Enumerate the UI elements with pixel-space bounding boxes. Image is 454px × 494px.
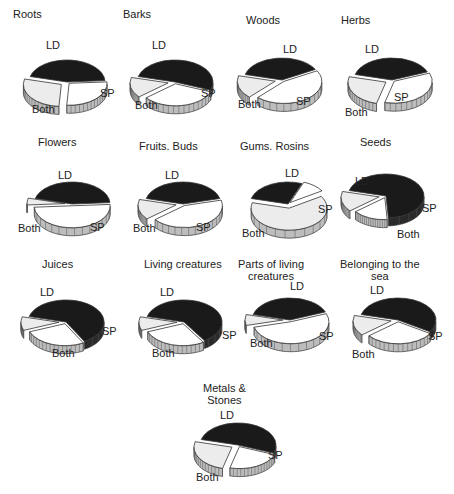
slice-label-sp: SP: [319, 331, 334, 342]
slice-label-ld: LD: [40, 287, 54, 298]
slice-label-ld: LD: [160, 287, 174, 298]
slice-ld: [251, 182, 302, 204]
slice-label-both: Both: [32, 104, 55, 115]
chart-title: Parts of living creatures: [238, 258, 304, 282]
slice-label-sp: SP: [318, 204, 333, 215]
slice-label-sp: SP: [422, 203, 437, 214]
slice-label-sp: SP: [201, 88, 216, 99]
slice-both: [21, 317, 59, 339]
slice-label-both: Both: [135, 100, 158, 111]
slice-ld: [355, 58, 427, 80]
slice-ld: [245, 58, 315, 80]
slice-ld: [201, 423, 276, 461]
chart-title: Living creatures: [144, 258, 222, 270]
slice-both: [341, 191, 379, 218]
slice-label-both: Both: [133, 223, 156, 234]
chart-title: Metals & Stones: [203, 382, 246, 406]
slice-label-ld: LD: [165, 170, 179, 181]
slice-label-ld: LD: [365, 44, 379, 55]
slice-label-sp: SP: [102, 326, 117, 337]
slice-label-both: Both: [196, 472, 219, 483]
chart-title: Fruits. Buds: [139, 140, 198, 152]
slice-label-both: Both: [352, 349, 375, 360]
slice-label-both: Both: [397, 229, 420, 240]
slice-label-sp: SP: [196, 222, 211, 233]
chart-title: Herbs: [341, 14, 370, 26]
chart-title: Woods: [246, 14, 280, 26]
slice-label-both: Both: [152, 348, 175, 359]
slice-label-ld: LD: [152, 40, 166, 51]
slice-sp: [290, 182, 322, 202]
chart-title: Seeds: [360, 136, 391, 148]
slice-both: [139, 317, 177, 339]
slice-label-sp: SP: [268, 450, 283, 461]
slice-ld: [30, 60, 105, 82]
slice-label-both: Both: [52, 348, 75, 359]
slice-ld: [361, 298, 436, 340]
slice-both: [27, 198, 65, 213]
chart-title: Gums. Rosins: [240, 140, 309, 152]
slice-label-ld: LD: [58, 170, 72, 181]
slice-label-ld: LD: [46, 40, 60, 51]
slice-label-both: Both: [238, 99, 261, 110]
slice-sp: [356, 198, 388, 228]
chart-title: Roots: [13, 8, 42, 20]
slice-label-sp: SP: [100, 88, 115, 99]
slice-label-both: Both: [250, 338, 273, 349]
slice-label-ld: LD: [285, 168, 299, 179]
slice-ld: [35, 182, 110, 204]
slice-sp: [258, 71, 322, 112]
slice-ld: [253, 298, 325, 320]
slice-both: [245, 315, 283, 334]
chart-title: Barks: [123, 8, 151, 20]
slice-label-ld: LD: [355, 176, 369, 187]
slice-ld: [29, 300, 104, 349]
slice-label-sp: SP: [394, 92, 409, 103]
slice-both: [353, 315, 391, 342]
slice-label-ld: LD: [290, 281, 304, 292]
slice-label-ld: LD: [370, 285, 384, 296]
slice-sp: [155, 200, 222, 235]
chart-title: Belonging to the sea: [340, 258, 420, 282]
slice-label-both: Both: [345, 107, 368, 118]
chart-title: Flowers: [38, 136, 77, 148]
slice-label-sp: SP: [428, 331, 443, 342]
slice-label-both: Both: [18, 223, 41, 234]
slice-label-ld: LD: [220, 410, 234, 421]
slice-ld: [146, 182, 220, 204]
slice-ld: [147, 300, 222, 349]
slice-label-sp: SP: [296, 96, 311, 107]
slice-sp: [369, 322, 430, 352]
chart-title: Juices: [42, 258, 73, 270]
slice-label-ld: LD: [283, 44, 297, 55]
slice-label-sp: SP: [90, 222, 105, 233]
slice-label-both: Both: [242, 228, 265, 239]
slice-label-sp: SP: [222, 330, 237, 341]
